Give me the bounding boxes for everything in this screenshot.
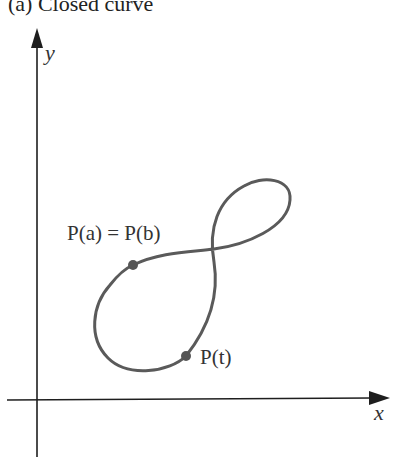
y-axis-label: y: [43, 40, 55, 65]
point-moving-marker: [181, 351, 191, 361]
diagram-canvas: y x P(a) = P(b) P(t): [0, 0, 405, 457]
y-axis: [31, 28, 43, 457]
x-axis-label: x: [373, 400, 384, 425]
closed-curve: [95, 180, 290, 371]
x-axis: [7, 391, 390, 405]
point-start-end-label: P(a) = P(b): [67, 221, 161, 245]
y-axis-arrow-icon: [31, 28, 43, 48]
point-moving-label: P(t): [200, 345, 232, 369]
point-start-end-marker: [128, 260, 138, 270]
